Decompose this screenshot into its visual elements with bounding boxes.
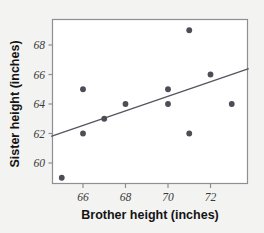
x-tick-label-68: 68	[120, 191, 132, 203]
x-tick-label-66: 66	[77, 191, 89, 203]
y-tick-label-62: 62	[34, 128, 46, 140]
plot-frame	[53, 20, 248, 184]
x-tick-label-72: 72	[205, 191, 217, 203]
x-tick-label-70: 70	[162, 191, 174, 203]
data-point	[208, 72, 214, 78]
plot-canvas: 68 66 64 62 60 66 68 70 72 Brother heigh…	[0, 0, 264, 233]
data-point	[80, 131, 86, 137]
data-point	[186, 131, 192, 137]
y-tick-label-66: 66	[34, 69, 46, 81]
y-tick-label-64: 64	[34, 98, 46, 110]
y-axis-title: Sister height (inches)	[8, 40, 22, 167]
y-tick-label-68: 68	[34, 39, 46, 51]
y-tick-label-60: 60	[34, 157, 46, 169]
data-point	[229, 101, 235, 107]
data-point	[123, 101, 129, 107]
x-axis-title: Brother height (inches)	[81, 208, 219, 222]
data-point	[186, 27, 192, 33]
scatter-plot-figure: 68 66 64 62 60 66 68 70 72 Brother heigh…	[0, 0, 264, 233]
data-point	[165, 86, 171, 92]
data-point	[80, 86, 86, 92]
data-point	[59, 175, 65, 181]
data-point	[101, 116, 107, 122]
data-point	[165, 101, 171, 107]
